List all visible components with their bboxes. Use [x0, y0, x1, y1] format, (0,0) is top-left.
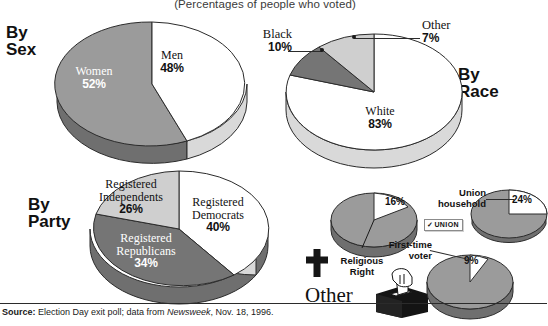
section-title-by-sex: By Sex	[6, 24, 36, 58]
slice-value-men: 48%	[160, 61, 183, 75]
slice-label-democrats: Registered Democrats 40%	[176, 196, 260, 234]
union-card-label: UNION	[434, 221, 459, 228]
slice-value-democrats: 40%	[206, 220, 229, 234]
label-religious-right-l2: Right	[350, 266, 374, 277]
slice-label-white: White 83%	[345, 105, 415, 130]
source-prefix: Source:	[2, 307, 36, 317]
section-title-by-sex-line2: Sex	[6, 41, 36, 58]
label-first-time-voter-l2: voter	[409, 250, 432, 261]
union-card-icon: ✓UNION	[424, 219, 463, 231]
cross-icon	[305, 248, 329, 278]
slice-label-independents: Registered Independents 26%	[88, 178, 174, 216]
slice-label-republicans: Registered Republicans 34%	[100, 232, 192, 270]
callout-other-race-text: Other	[422, 18, 450, 32]
label-first-time-voter-l1: First-time	[389, 239, 432, 250]
leader-line-black	[288, 51, 322, 52]
callout-other-race: Other 7%	[422, 19, 492, 45]
label-union-household-l1: Union	[459, 187, 486, 198]
slice-value-union-household: 24%	[512, 194, 532, 205]
leader-dot-other-race	[352, 35, 356, 39]
slice-value-republicans: 34%	[134, 256, 157, 270]
callout-black: Black 10%	[232, 28, 292, 54]
slice-value-white: 83%	[368, 117, 391, 131]
callout-other-race-value: 7%	[422, 31, 439, 45]
label-union-household-l2: household	[438, 198, 486, 209]
source-text-a: Election Day exit poll; data from	[36, 307, 168, 317]
slice-value-independents: 26%	[119, 202, 142, 216]
leader-dot-black	[320, 48, 324, 52]
leader-line-other-race	[354, 38, 420, 39]
footer-divider	[0, 303, 547, 304]
source-note: Source: Election Day exit poll; data fro…	[2, 307, 432, 317]
slice-label-men: Men 48%	[140, 49, 204, 74]
label-first-time-voter: First-time voter	[368, 240, 432, 261]
slice-label-women: Women 52%	[58, 65, 130, 90]
check-icon: ✓	[427, 221, 433, 228]
leader-line-union-household	[486, 199, 514, 200]
source-publication: Newsweek	[167, 307, 211, 317]
slice-value-women: 52%	[82, 77, 105, 91]
section-title-by-party: By Party	[28, 196, 71, 230]
slice-value-religious-right: 16%	[385, 196, 405, 207]
callout-black-text: Black	[263, 27, 292, 41]
section-title-other: Other	[305, 283, 353, 308]
label-union-household: Union household	[424, 188, 486, 209]
source-text-b: , Nov. 18, 1996.	[211, 307, 274, 317]
section-title-by-party-line2: Party	[28, 213, 71, 230]
